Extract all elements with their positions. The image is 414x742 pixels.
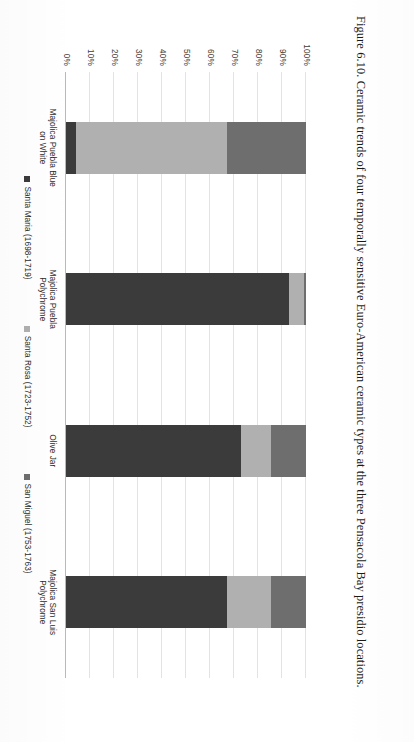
legend-swatch-icon [25,176,31,182]
x-axis-category-label: Majolica Puebla Blue on White [37,105,57,191]
legend-item[interactable]: San Miguel (1753-1763) [23,474,32,574]
x-axis-category-label: Olive Jar [47,408,57,494]
bar-segment[interactable] [289,273,303,325]
y-axis-tick: 90% [278,49,287,66]
y-axis-tick: 50% [182,49,191,66]
legend-item[interactable]: Santa Maria (1698-1719) [23,176,32,279]
bar-segment[interactable] [76,122,227,174]
bar-segment[interactable] [271,576,306,628]
figure-caption: Figure 6.10. Ceramic trends of four temp… [351,16,370,716]
y-axis-tick: 70% [230,49,239,66]
bar-column[interactable]: Olive Jar [66,425,306,477]
plot-area: 0%10%20%30%40%50%60%70%80%90%100%Majolic… [66,72,306,678]
y-axis-tick: 60% [206,49,215,66]
bar-segment[interactable] [66,122,76,174]
bar-segment[interactable] [66,576,227,628]
legend-swatch-icon [25,474,31,480]
y-axis-tick: 30% [134,49,143,66]
figure-chart-area: 0%10%20%30%40%50%60%70%80%90%100%Majolic… [14,0,314,742]
bar-segment[interactable] [241,425,271,477]
legend-swatch-icon [25,326,31,332]
bar-segment[interactable] [227,122,306,174]
legend-label: Santa Rosa (1723-1752) [23,336,32,428]
y-axis-tick: 0% [62,54,71,66]
legend-label: San Miguel (1753-1763) [23,484,32,574]
legend-label: Santa Maria (1698-1719) [23,186,32,279]
bar-segment[interactable] [66,425,241,477]
y-axis-tick: 80% [254,49,263,66]
bar-column[interactable]: Majolica San Luis Polychrome [66,576,306,628]
figure-page: Figure 6.10. Ceramic trends of four temp… [0,0,414,742]
y-axis-tick: 20% [110,49,119,66]
bar-segment[interactable] [66,273,289,325]
x-axis-category-label: Majolica San Luis Polychrome [37,559,57,645]
y-axis-tick: 40% [158,49,167,66]
bar-column[interactable]: Majolica Puebla Polychrome [66,273,306,325]
y-axis-tick: 100% [302,44,311,66]
bar-segment[interactable] [304,273,306,325]
chart-legend: Santa Maria (1698-1719)Santa Rosa (1723-… [23,72,32,678]
bar-segment[interactable] [227,576,271,628]
bar-segment[interactable] [271,425,306,477]
legend-item[interactable]: Santa Rosa (1723-1752) [23,326,32,428]
bar-column[interactable]: Majolica Puebla Blue on White [66,122,306,174]
y-axis-tick: 10% [86,49,95,66]
x-axis-category-label: Majolica Puebla Polychrome [37,256,57,342]
